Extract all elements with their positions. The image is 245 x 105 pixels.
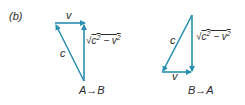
v-term: − v bbox=[100, 35, 116, 46]
v-label-left: v bbox=[66, 9, 72, 21]
caption-b-to-a: B→A bbox=[188, 84, 214, 96]
sqrt-label-right: √c2 − v2 bbox=[196, 30, 231, 42]
exponent: 2 bbox=[227, 30, 231, 37]
c-label-left: c bbox=[60, 47, 66, 59]
c-label-right: c bbox=[170, 34, 176, 46]
v-label-right: v bbox=[172, 70, 178, 82]
radicand: c2 − v2 bbox=[202, 31, 231, 42]
sqrt-label-left: √c2 − v2 bbox=[86, 34, 121, 46]
part-label: (b) bbox=[9, 10, 22, 22]
caption-a-to-b: A→B bbox=[79, 84, 105, 96]
v-term: − v bbox=[210, 31, 226, 42]
exponent: 2 bbox=[117, 34, 121, 41]
radicand: c2 − v2 bbox=[92, 35, 121, 46]
vector-c-right bbox=[163, 15, 192, 71]
